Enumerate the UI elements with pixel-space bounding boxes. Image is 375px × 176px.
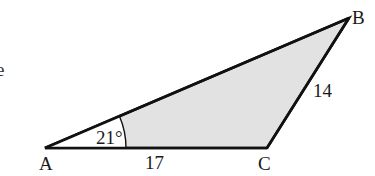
side-label-cb: 14 bbox=[313, 81, 332, 100]
side-label-ac: 17 bbox=[145, 153, 164, 172]
vertex-label-b: B bbox=[352, 8, 365, 27]
angle-label-a: 21° bbox=[96, 128, 123, 147]
vertex-label-a: A bbox=[39, 154, 53, 173]
vertex-label-c: C bbox=[258, 154, 271, 173]
triangle-diagram: e A B C 17 14 21° bbox=[0, 0, 375, 176]
cropped-text-fragment: e bbox=[0, 60, 4, 79]
